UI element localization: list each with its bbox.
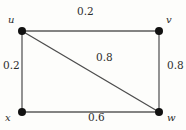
vertex-label-w: w [167,113,176,123]
vertex-node-v [155,27,163,35]
edge-weight-u-w: 0.8 [96,52,113,63]
vertex-node-u [18,27,26,35]
edge-weight-u-x: 0.2 [3,60,20,71]
edge-weight-x-w: 0.6 [88,112,105,123]
vertex-node-x [18,108,26,116]
vertex-label-u: u [8,15,14,25]
edge-weight-u-v: 0.2 [77,6,94,17]
vertex-node-w [155,108,163,116]
vertex-label-x: x [5,113,11,123]
vertex-label-v: v [166,15,172,25]
edge-weight-v-w: 0.8 [167,60,184,71]
edge-u-w [22,31,159,112]
graph-diagram: u v x w 0.2 0.2 0.8 0.6 0.8 [0,0,186,130]
